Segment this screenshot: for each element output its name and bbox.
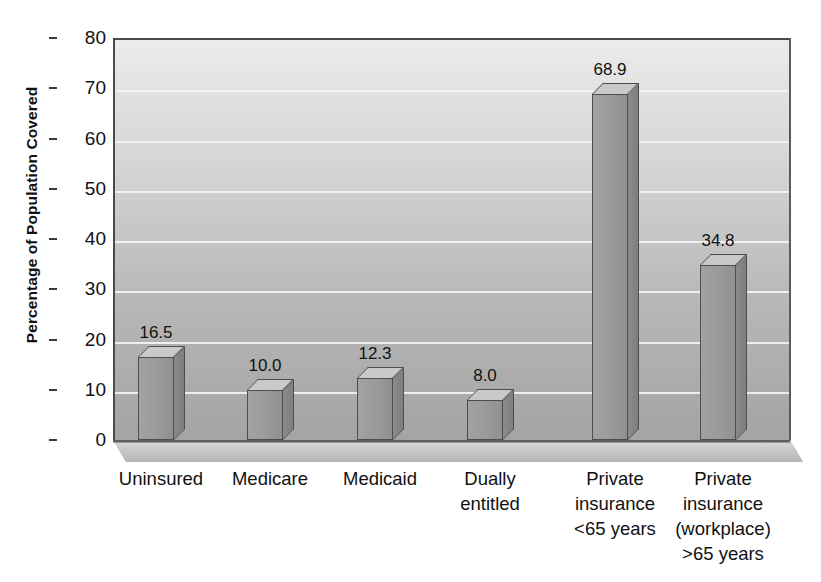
y-tick-mark bbox=[49, 339, 57, 341]
gridline bbox=[115, 291, 790, 293]
bar-chart: Percentage of Population Covered 0102030… bbox=[0, 0, 821, 582]
bar-front-face bbox=[357, 378, 393, 440]
y-tick-label: 60 bbox=[66, 128, 106, 150]
y-tick-mark bbox=[49, 288, 57, 290]
y-tick-label: 70 bbox=[66, 77, 106, 99]
y-tick-mark bbox=[49, 439, 57, 441]
y-tick-mark bbox=[49, 138, 57, 140]
bar[interactable] bbox=[357, 378, 393, 440]
bar[interactable] bbox=[247, 390, 283, 440]
gridline bbox=[115, 90, 790, 92]
bar-side-face bbox=[736, 254, 747, 440]
gridline bbox=[115, 342, 790, 344]
y-tick-label: 50 bbox=[66, 178, 106, 200]
bar-value-label: 12.3 bbox=[358, 344, 391, 364]
gridline bbox=[115, 392, 790, 394]
x-category-label-line: Private bbox=[638, 466, 808, 491]
bar-front-face bbox=[467, 400, 503, 440]
bar-value-label: 8.0 bbox=[473, 366, 497, 386]
plot-right-border bbox=[789, 38, 791, 442]
gridline bbox=[115, 241, 790, 243]
bar-front-face bbox=[138, 357, 174, 440]
bar[interactable] bbox=[592, 94, 628, 440]
bar-value-label: 34.8 bbox=[701, 231, 734, 251]
bar-side-face bbox=[393, 367, 404, 440]
bar-front-face bbox=[592, 94, 628, 440]
y-tick-label: 0 bbox=[66, 429, 106, 451]
gridline bbox=[115, 191, 790, 193]
y-tick-label: 80 bbox=[66, 27, 106, 49]
y-tick-mark bbox=[49, 238, 57, 240]
plot-area bbox=[113, 38, 790, 440]
bar-value-label: 10.0 bbox=[248, 356, 281, 376]
bar-side-face bbox=[628, 83, 639, 440]
bar-front-face bbox=[700, 265, 736, 440]
y-tick-label: 40 bbox=[66, 228, 106, 250]
y-tick-mark bbox=[49, 87, 57, 89]
y-axis-title: Percentage of Population Covered bbox=[23, 15, 41, 415]
y-tick-label: 20 bbox=[66, 329, 106, 351]
bar[interactable] bbox=[138, 357, 174, 440]
bar[interactable] bbox=[700, 265, 736, 440]
bar-front-face bbox=[247, 390, 283, 440]
bar-value-label: 68.9 bbox=[593, 60, 626, 80]
gridline bbox=[115, 141, 790, 143]
y-tick-label: 30 bbox=[66, 278, 106, 300]
chart-floor bbox=[113, 440, 803, 462]
x-category-label-line: (workplace) bbox=[638, 516, 808, 541]
y-tick-mark bbox=[49, 37, 57, 39]
y-tick-mark bbox=[49, 389, 57, 391]
bar-side-face bbox=[174, 346, 185, 440]
x-category-label: Privateinsurance(workplace)>65 years bbox=[638, 466, 808, 566]
x-category-label-line: >65 years bbox=[638, 541, 808, 566]
bar-value-label: 16.5 bbox=[139, 323, 172, 343]
y-axis-tick-labels: 01020304050607080 bbox=[58, 0, 106, 582]
x-category-label-line: insurance bbox=[638, 491, 808, 516]
y-tick-label: 10 bbox=[66, 379, 106, 401]
y-tick-mark bbox=[49, 188, 57, 190]
bar[interactable] bbox=[467, 400, 503, 440]
